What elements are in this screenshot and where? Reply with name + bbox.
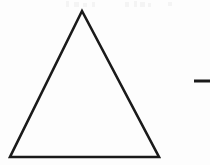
scan-speckle <box>92 2 95 7</box>
scan-speckle <box>168 2 172 6</box>
scan-speckle <box>125 2 129 7</box>
scan-speckle <box>148 3 151 7</box>
scan-speckle <box>134 1 137 7</box>
scan-speckle <box>74 2 79 7</box>
canvas-background <box>0 0 210 165</box>
scan-speckle <box>66 1 69 7</box>
drawing-canvas <box>0 0 210 165</box>
scan-speckle <box>140 2 145 7</box>
scan-speckle <box>83 3 87 7</box>
line-drawing-figure <box>0 0 210 165</box>
